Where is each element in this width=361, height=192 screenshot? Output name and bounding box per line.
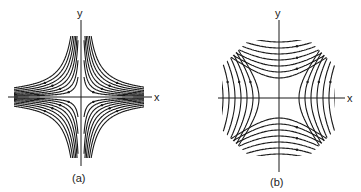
arrow-dot bbox=[92, 101, 94, 103]
arrow-dot bbox=[108, 107, 110, 109]
arrow-dot bbox=[59, 104, 61, 106]
arrow-dot bbox=[67, 101, 69, 103]
arrow-dot bbox=[44, 82, 46, 84]
arrow-dot bbox=[215, 81, 217, 83]
panel-b: y x (b) bbox=[198, 7, 360, 188]
x-axis-label-b: x bbox=[347, 92, 353, 104]
arrow-dot bbox=[59, 88, 61, 90]
streamline bbox=[87, 23, 162, 92]
panel-a: y x (a) bbox=[1, 7, 161, 184]
arrow-dot bbox=[44, 110, 46, 112]
arrow-dot bbox=[226, 81, 228, 83]
arrow-dot bbox=[296, 160, 298, 162]
arrow-dot bbox=[296, 57, 298, 59]
streamline bbox=[87, 102, 162, 171]
streamline bbox=[88, 103, 162, 175]
arrow-dot bbox=[296, 33, 298, 35]
arrow-dot bbox=[318, 81, 320, 83]
y-axis-label-b: y bbox=[275, 7, 281, 19]
streamline bbox=[1, 19, 75, 91]
x-axis-label-a: x bbox=[154, 91, 160, 103]
streamline bbox=[88, 19, 162, 91]
arrow-dot bbox=[296, 126, 298, 128]
arrow-dot bbox=[296, 137, 298, 139]
streamline bbox=[198, 28, 217, 168]
arrow-dot bbox=[296, 68, 298, 70]
streamline bbox=[1, 105, 73, 175]
arrow-dot bbox=[306, 81, 308, 83]
streamline bbox=[1, 20, 73, 90]
caption-b: (b) bbox=[270, 176, 283, 188]
arrow-dot bbox=[108, 85, 110, 87]
streamline bbox=[1, 60, 78, 95]
arrow-dot bbox=[249, 81, 251, 83]
arrow-dot bbox=[341, 81, 343, 83]
streamline bbox=[84, 60, 161, 95]
streamline bbox=[1, 103, 75, 175]
streamline bbox=[1, 98, 78, 133]
figure-canvas: y x (a) y x (b) bbox=[0, 0, 361, 192]
arrow-dot bbox=[51, 85, 53, 87]
arrow-dot bbox=[116, 110, 118, 112]
streamline bbox=[1, 102, 76, 171]
arrow-dot bbox=[101, 104, 103, 106]
streamline bbox=[89, 20, 161, 90]
caption-a: (a) bbox=[72, 172, 85, 184]
arrow-dot bbox=[296, 45, 298, 47]
arrow-dot bbox=[67, 91, 69, 93]
arrow-dot bbox=[329, 81, 331, 83]
arrow-dot bbox=[92, 91, 94, 93]
arrow-dot bbox=[296, 149, 298, 151]
arrow-dot bbox=[116, 82, 118, 84]
streamline bbox=[1, 23, 76, 92]
y-axis-label-a: y bbox=[77, 7, 83, 19]
streamline bbox=[84, 98, 161, 133]
streamline bbox=[89, 105, 161, 175]
arrow-dot bbox=[101, 88, 103, 90]
arrow-dot bbox=[51, 107, 53, 109]
arrow-dot bbox=[238, 81, 240, 83]
